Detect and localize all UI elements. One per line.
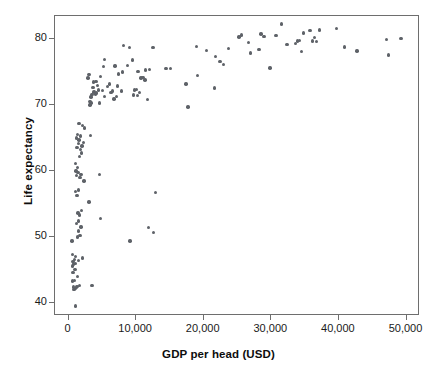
data-point bbox=[196, 74, 199, 77]
data-point bbox=[116, 84, 119, 87]
data-point bbox=[77, 259, 80, 262]
data-point bbox=[79, 134, 82, 137]
data-point bbox=[387, 53, 390, 56]
data-point bbox=[218, 60, 221, 63]
data-point bbox=[78, 176, 81, 179]
data-point bbox=[259, 32, 262, 35]
data-point bbox=[103, 58, 106, 61]
data-point bbox=[315, 40, 318, 43]
data-point bbox=[113, 64, 116, 67]
data-point bbox=[77, 188, 80, 191]
x-tick-label: 0 bbox=[33, 323, 103, 334]
x-tick-mark bbox=[203, 315, 204, 320]
data-point bbox=[74, 304, 77, 307]
data-point bbox=[195, 45, 198, 48]
data-point bbox=[308, 29, 311, 32]
data-point bbox=[117, 72, 120, 75]
data-point bbox=[318, 28, 321, 31]
data-point bbox=[75, 194, 78, 197]
data-point bbox=[257, 48, 260, 51]
x-tick-mark bbox=[338, 315, 339, 320]
data-point bbox=[77, 142, 80, 145]
x-tick-mark bbox=[406, 315, 407, 320]
data-point bbox=[152, 231, 155, 234]
data-point bbox=[103, 95, 106, 98]
data-point bbox=[184, 82, 187, 85]
data-point bbox=[79, 148, 82, 151]
data-point bbox=[311, 39, 314, 42]
data-point bbox=[302, 31, 305, 34]
data-point bbox=[128, 239, 131, 242]
data-point bbox=[96, 84, 99, 87]
data-points-layer bbox=[55, 16, 418, 314]
data-point bbox=[80, 209, 83, 212]
data-point bbox=[70, 239, 73, 242]
data-point bbox=[141, 76, 144, 79]
x-tick-label: 40,000 bbox=[303, 323, 373, 334]
data-point bbox=[75, 136, 78, 139]
x-tick-mark bbox=[270, 315, 271, 320]
data-point bbox=[87, 73, 90, 76]
data-point bbox=[164, 67, 167, 70]
data-point bbox=[274, 34, 277, 37]
data-point bbox=[81, 256, 84, 259]
data-point bbox=[148, 68, 151, 71]
data-point bbox=[132, 93, 135, 96]
data-point bbox=[97, 88, 100, 91]
x-tick-mark bbox=[135, 315, 136, 320]
data-point bbox=[126, 64, 129, 67]
data-point bbox=[300, 50, 303, 53]
data-point bbox=[135, 88, 138, 91]
data-point bbox=[73, 258, 76, 261]
data-point bbox=[240, 33, 243, 36]
data-point bbox=[213, 86, 216, 89]
data-point bbox=[79, 225, 82, 228]
data-point bbox=[78, 284, 81, 287]
data-point bbox=[335, 27, 338, 30]
data-point bbox=[76, 211, 79, 214]
data-point bbox=[80, 151, 83, 154]
data-point bbox=[268, 66, 271, 69]
data-point bbox=[111, 89, 114, 92]
y-tick-label: 80 bbox=[7, 32, 47, 43]
data-point bbox=[99, 75, 102, 78]
x-tick-label: 20,000 bbox=[168, 323, 238, 334]
data-point bbox=[99, 217, 102, 220]
data-point bbox=[98, 173, 101, 176]
data-point bbox=[101, 89, 104, 92]
data-point bbox=[92, 90, 95, 93]
data-point bbox=[89, 134, 92, 137]
data-point bbox=[82, 179, 85, 182]
data-point bbox=[98, 101, 101, 104]
data-point bbox=[147, 226, 150, 229]
data-point bbox=[77, 122, 80, 125]
data-point bbox=[91, 86, 94, 89]
data-point bbox=[78, 234, 81, 237]
data-point bbox=[169, 67, 172, 70]
data-point bbox=[90, 284, 93, 287]
data-point bbox=[343, 45, 346, 48]
data-point bbox=[82, 141, 85, 144]
data-point bbox=[87, 200, 90, 203]
data-point bbox=[83, 126, 86, 129]
data-point bbox=[144, 68, 147, 71]
data-point bbox=[249, 51, 252, 54]
data-point bbox=[80, 144, 83, 147]
data-point bbox=[313, 36, 316, 39]
y-axis-title: Life expectancy bbox=[22, 81, 34, 241]
data-point bbox=[94, 80, 97, 83]
data-point bbox=[77, 219, 80, 222]
data-point bbox=[280, 22, 283, 25]
data-point bbox=[76, 166, 79, 169]
data-point bbox=[115, 95, 118, 98]
plot-area bbox=[54, 15, 419, 315]
data-point bbox=[214, 55, 217, 58]
data-point bbox=[138, 91, 141, 94]
data-point bbox=[222, 63, 225, 66]
data-point bbox=[73, 268, 76, 271]
data-point bbox=[78, 155, 81, 158]
data-point bbox=[108, 82, 111, 85]
data-point bbox=[399, 37, 402, 40]
x-tick-mark bbox=[68, 315, 69, 320]
data-point bbox=[128, 46, 131, 49]
